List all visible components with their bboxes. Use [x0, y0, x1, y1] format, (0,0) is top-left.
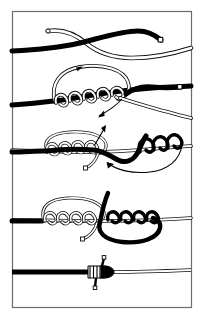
illustration-page: Blood knot tying sequence Five-step line… — [0, 0, 203, 320]
step-5-knot-dark — [100, 266, 114, 278]
step-5-tag-up-end — [102, 256, 106, 260]
step-3-dark-rope-in — [12, 151, 44, 152]
step-5-knot-light — [88, 266, 101, 278]
step-3-light-tag-end — [84, 166, 88, 170]
step-1-light-rope-end — [46, 29, 50, 33]
step-4-light-tag-end — [81, 237, 85, 241]
step-5-tag-down-end — [93, 286, 97, 290]
step-2-dark-tag-end — [178, 85, 182, 89]
step-1-dark-rope-end — [158, 37, 163, 42]
knot-diagram — [0, 0, 203, 320]
